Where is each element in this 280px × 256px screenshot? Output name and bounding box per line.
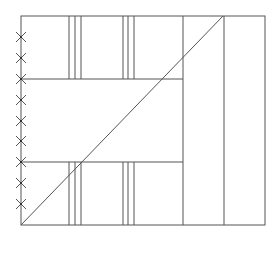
horizontal-dividers (21, 79, 183, 162)
vertical-line-groups (69, 16, 134, 225)
diagonal-line (21, 16, 223, 225)
x-markers (16, 32, 26, 209)
frame-rect (21, 16, 265, 225)
full-vertical-dividers (183, 16, 224, 225)
diagram-canvas (0, 0, 280, 256)
outer-frame (21, 16, 265, 225)
diagonal (21, 16, 223, 225)
